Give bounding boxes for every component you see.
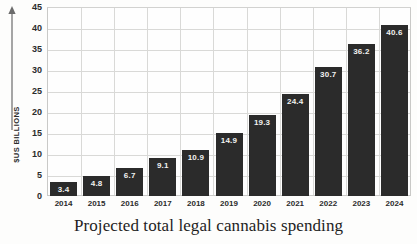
chart-caption: Projected total legal cannabis spending [0,216,417,236]
y-tick-label: 20 [32,107,42,117]
bar-value-label: 30.7 [315,70,342,79]
y-tick-label: 30 [32,65,42,75]
y-tick-label: 40 [32,23,42,33]
y-tick-label: 15 [32,128,42,138]
bar-value-label: 14.9 [216,136,243,145]
bar: 40.6 [381,25,408,196]
y-tick-label: 0 [37,191,42,201]
bar: 30.7 [315,67,342,196]
y-tick-label: 10 [32,149,42,159]
bar-series: 3.44.86.79.110.914.919.324.430.736.240.6 [47,7,411,196]
bar: 19.3 [249,115,276,196]
bar-value-label: 9.1 [149,161,176,170]
bar-value-label: 40.6 [381,28,408,37]
y-axis-tick-labels: 051015202530354045 [0,0,47,203]
bar: 36.2 [348,44,375,196]
bar-value-label: 24.4 [282,97,309,106]
bar-value-label: 36.2 [348,47,375,56]
bar: 3.4 [50,182,77,196]
bar: 24.4 [282,94,309,196]
bar-value-label: 4.8 [83,179,110,188]
y-tick-label: 35 [32,44,42,54]
y-tick-label: 5 [37,170,42,180]
y-tick-label: 45 [32,2,42,12]
y-tick-label: 25 [32,86,42,96]
bar: 10.9 [182,150,209,196]
bar-value-label: 10.9 [182,153,209,162]
bar: 4.8 [83,176,110,196]
x-tick-label: 2024 [374,199,414,208]
x-axis-tick-labels: 2014201520162017201820192020202120222023… [47,199,411,213]
bar: 14.9 [216,133,243,196]
chart-figure: $US BILLIONS 051015202530354045 3.44.86.… [0,0,417,244]
bar-value-label: 19.3 [249,118,276,127]
bar-value-label: 6.7 [116,171,143,180]
bar: 6.7 [116,168,143,196]
bar-value-label: 3.4 [50,185,77,194]
bar: 9.1 [149,158,176,196]
